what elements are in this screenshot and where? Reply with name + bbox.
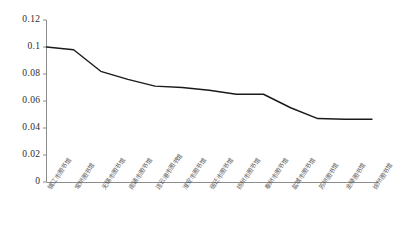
y-axis-label-5: 0.02 <box>22 149 40 159</box>
data-series-line <box>47 47 373 119</box>
line-chart-plot <box>0 0 404 252</box>
y-axis-label-6: 0 <box>35 176 40 186</box>
chart-figure: 0.120.10.080.060.040.020 镇江市图书馆常州图书馆无锡市图… <box>0 0 404 252</box>
y-axis-label-4: 0.04 <box>22 122 40 132</box>
axes-group <box>43 20 378 183</box>
y-axis-label-0: 0.12 <box>22 14 40 24</box>
y-axis-label-3: 0.06 <box>22 95 40 105</box>
y-axis-label-1: 0.1 <box>27 41 40 51</box>
y-axis-label-2: 0.08 <box>22 68 40 78</box>
y-axis-tick-marks <box>43 20 47 182</box>
